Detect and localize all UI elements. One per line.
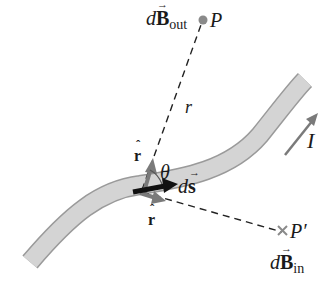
label-r-distance: r (185, 98, 192, 116)
biot-savart-diagram: d→Bout P r ˆr θ d→s ˆr P′ d→Bin I (0, 0, 335, 285)
point-p-prime-cross (278, 226, 287, 235)
r-prime-dashed-line (142, 192, 282, 232)
label-r-hat-down: ˆr (148, 212, 155, 228)
label-dB-out: d→Bout (146, 8, 187, 28)
point-p-dot (199, 16, 208, 25)
label-current-i: I (307, 130, 314, 152)
label-r-hat-up: ˆr (134, 148, 141, 164)
label-ds: d→s (178, 176, 196, 196)
label-point-p-prime: P′ (290, 221, 307, 241)
label-theta: θ (160, 162, 170, 182)
label-dB-in: d→Bin (270, 252, 304, 272)
label-point-p: P (210, 10, 222, 30)
